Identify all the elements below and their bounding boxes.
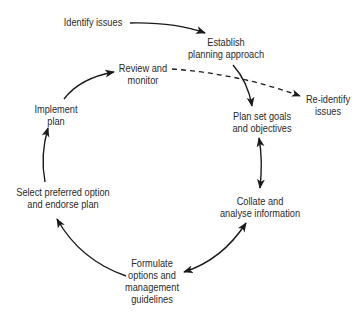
node-text: analyse information [216,207,304,219]
node-text: Re-identify [303,93,352,105]
node-text: monitor [118,74,167,86]
node-text: plan [31,115,80,127]
node-collate-and-analyse: Collate and analyse information [216,195,304,219]
arrow-review-to-reidentify-dashed [172,69,300,96]
node-text: Formulate [124,257,180,269]
node-text: planning approach [184,48,268,60]
node-text: issues [303,105,352,117]
arrow-plan-goals-collate-bidirectional [259,138,261,188]
node-text: options and [124,269,180,281]
cycle-diagram: Identify issues Establish planning appro… [0,0,360,316]
node-text: Collate and [216,195,304,207]
node-establish-planning-approach: Establish planning approach [184,36,268,60]
arrow-identify-to-establish [130,23,205,33]
node-identify-issues: Identify issues [62,16,124,28]
arrow-formulate-to-select [57,219,126,276]
node-text: Review and [118,62,167,74]
node-text: Select preferred option [15,186,112,198]
node-text: and endorse plan [15,198,112,210]
node-text: Plan set goals [225,110,299,122]
node-text: and objectives [225,122,299,134]
node-text: Identify issues [62,16,124,28]
node-text: Establish [184,36,268,48]
arrow-collate-formulate-bidirectional [184,223,246,272]
arrow-establish-to-plan-goals [233,65,252,106]
node-re-identify-issues: Re-identify issues [303,93,352,117]
node-text: guidelines [124,293,180,305]
node-plan-set-goals: Plan set goals and objectives [225,110,299,134]
node-select-preferred-option: Select preferred option and endorse plan [15,186,112,210]
node-review-and-monitor: Review and monitor [118,62,167,86]
node-text: Implement [31,103,80,115]
node-formulate-options: Formulate options and management guideli… [124,257,180,305]
arrow-implement-to-review [64,72,114,99]
node-text: management [124,281,180,293]
arrow-select-to-implement [43,128,48,182]
node-implement-plan: Implement plan [31,103,80,127]
